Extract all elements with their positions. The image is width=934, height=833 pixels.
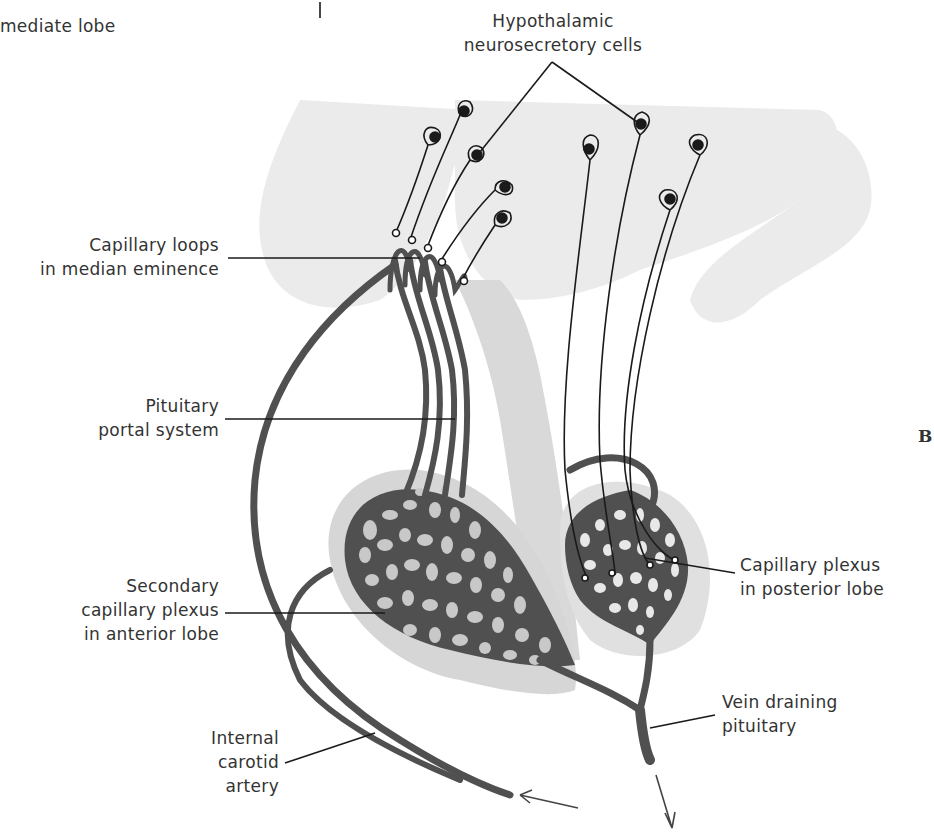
label-capillary-loops: Capillary loops in median eminence — [0, 233, 219, 281]
label-internal-carotid-artery: Internal carotid artery — [0, 726, 279, 798]
panel-letter: B — [918, 426, 932, 446]
label-capillary-plexus-posterior: Capillary plexus in posterior lobe — [740, 553, 884, 601]
label-secondary-capillary-plexus: Secondary capillary plexus in anterior l… — [0, 574, 219, 646]
flow-arrows — [520, 775, 675, 828]
label-pituitary-portal-system: Pituitary portal system — [0, 394, 219, 442]
label-hypothalamic-neurosecretory-cells: Hypothalamic neurosecretory cells — [440, 9, 666, 57]
arrow-out-of-vein — [656, 775, 675, 828]
label-vein-draining-pituitary: Vein draining pituitary — [722, 690, 838, 738]
arrow-into-carotid — [520, 790, 578, 808]
vein-draining-pituitary — [640, 710, 650, 760]
label-intermediate-lobe: mediate lobe — [0, 14, 115, 38]
